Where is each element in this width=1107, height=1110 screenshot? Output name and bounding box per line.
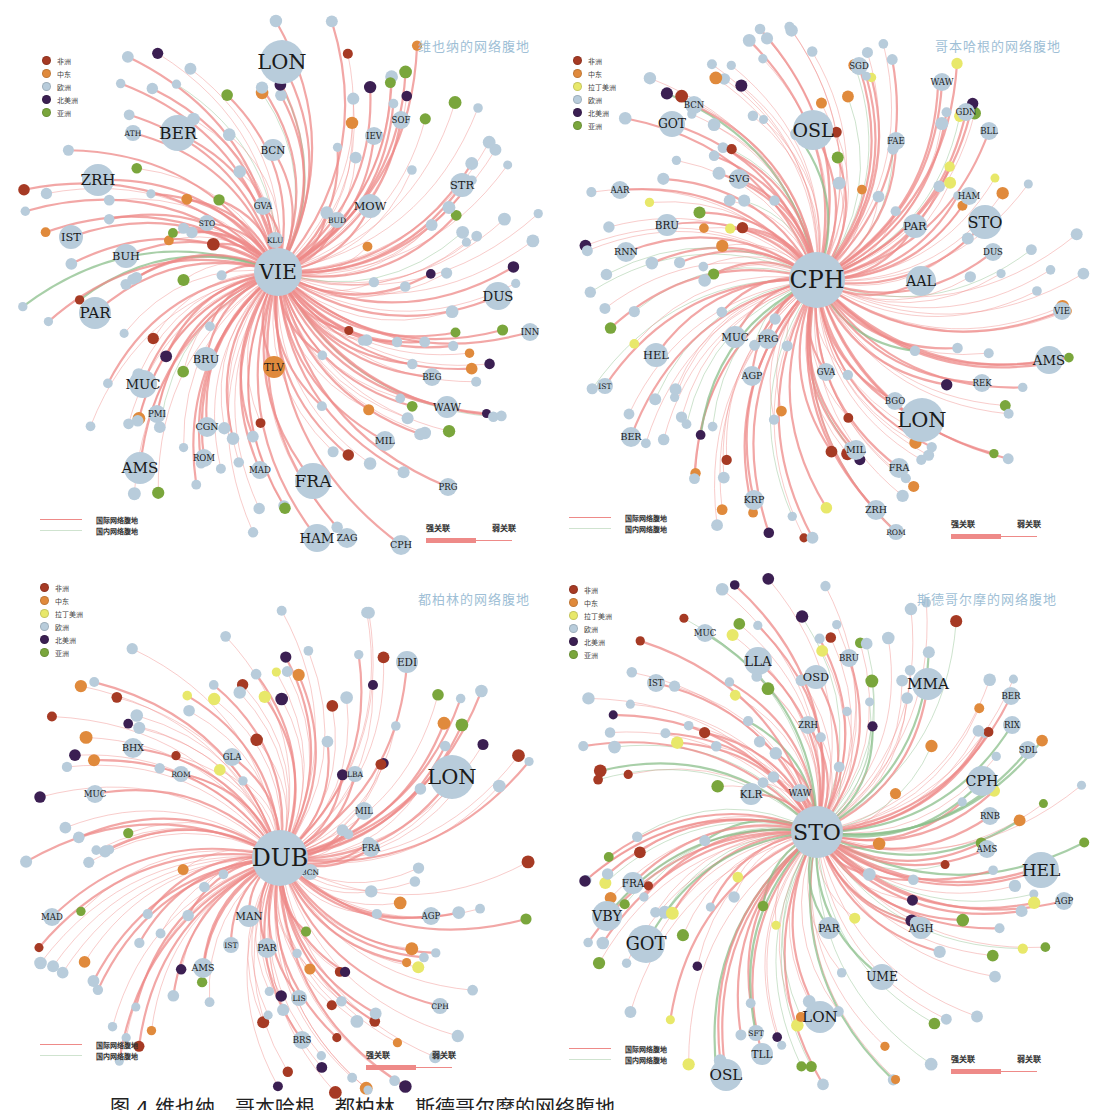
city-node xyxy=(832,152,844,164)
city-node xyxy=(605,322,617,334)
city-node xyxy=(636,636,645,645)
city-node xyxy=(214,764,226,776)
city-node xyxy=(996,187,1008,199)
panel-dublin: LONEDIBHXMANPARAMSFRAAGPMILGLAMUCMADBRSL… xyxy=(0,553,553,1098)
legend-item-middle-east: 中东 xyxy=(40,594,83,607)
weak-link-label: 弱关联 xyxy=(1017,1053,1041,1064)
city-node xyxy=(622,958,631,967)
legend-item-middle-east: 中东 xyxy=(573,67,616,80)
city-node xyxy=(361,607,372,618)
strength-legend: 强关联弱关联 xyxy=(426,522,516,543)
city-node xyxy=(608,741,621,754)
city-node: ZRH xyxy=(80,164,115,196)
city-node xyxy=(522,855,535,868)
city-node xyxy=(727,629,739,641)
city-node xyxy=(147,1026,156,1035)
svg-text:RIX: RIX xyxy=(1004,720,1021,730)
city-node xyxy=(133,722,145,734)
city-node: LLA xyxy=(744,647,772,675)
svg-text:BGO: BGO xyxy=(885,396,905,406)
city-node xyxy=(364,81,376,93)
city-node: IST xyxy=(597,378,613,394)
legend-label: 欧洲 xyxy=(55,622,69,632)
city-node xyxy=(471,377,481,387)
legend-item-north-america: 北美洲 xyxy=(569,635,612,648)
city-node xyxy=(378,651,390,663)
city-node xyxy=(725,677,734,686)
city-node xyxy=(807,532,819,544)
legend-item-asia: 亚洲 xyxy=(573,119,616,132)
city-node xyxy=(880,1042,889,1051)
city-node xyxy=(431,948,440,957)
legend-item-latin-america: 拉丁美洲 xyxy=(40,607,83,620)
city-node xyxy=(716,240,728,252)
city-node xyxy=(735,1029,746,1040)
city-node xyxy=(511,279,520,288)
svg-text:FRA: FRA xyxy=(889,462,910,473)
city-node xyxy=(599,303,610,314)
city-node: BUH xyxy=(112,244,140,268)
city-node: HEL xyxy=(1022,852,1061,888)
city-node xyxy=(343,49,353,59)
svg-text:AGP: AGP xyxy=(741,370,763,381)
city-node xyxy=(275,990,286,1001)
weak-link-label: 弱关联 xyxy=(1017,518,1041,529)
svg-text:BER: BER xyxy=(620,431,642,442)
city-node xyxy=(716,307,727,318)
legend-label: 拉丁美洲 xyxy=(584,611,612,621)
legend-label: 北美洲 xyxy=(57,95,78,105)
svg-text:EDI: EDI xyxy=(397,656,417,668)
svg-text:PAR: PAR xyxy=(818,922,841,934)
city-node: MIL xyxy=(375,431,396,451)
weak-link-label: 弱关联 xyxy=(492,522,516,533)
svg-text:BER: BER xyxy=(159,123,198,143)
city-node: RNB xyxy=(980,807,1000,825)
city-node xyxy=(1018,943,1028,953)
city-node xyxy=(769,415,779,425)
city-node xyxy=(304,646,314,656)
city-node xyxy=(116,79,125,88)
city-node xyxy=(217,270,227,280)
city-node xyxy=(318,351,328,361)
city-node xyxy=(340,691,353,704)
svg-text:LON: LON xyxy=(427,765,476,789)
svg-text:LON: LON xyxy=(897,408,946,432)
region-legend: 非洲中东拉丁美洲欧洲北美洲亚洲 xyxy=(573,54,616,132)
legend-label: 欧洲 xyxy=(584,624,598,634)
city-node xyxy=(826,632,837,643)
city-node xyxy=(401,91,412,102)
svg-text:WAW: WAW xyxy=(789,788,812,798)
city-node xyxy=(171,751,180,760)
city-node xyxy=(277,1004,289,1016)
city-node xyxy=(414,428,426,440)
city-node: AAR xyxy=(610,181,630,199)
city-node xyxy=(130,709,143,722)
svg-text:AAL: AAL xyxy=(905,273,937,289)
city-node xyxy=(1032,286,1042,296)
city-node xyxy=(452,906,465,919)
city-node xyxy=(1016,905,1028,917)
city-node: BER xyxy=(1002,687,1022,705)
city-node xyxy=(669,681,680,692)
city-node xyxy=(122,51,134,63)
city-node: OSL xyxy=(710,1059,743,1091)
city-node xyxy=(256,418,266,428)
legend-label: 拉丁美洲 xyxy=(55,609,83,619)
city-node xyxy=(672,156,681,165)
city-node xyxy=(391,721,401,731)
city-node: MAN xyxy=(235,905,262,927)
svg-text:REK: REK xyxy=(972,378,992,388)
svg-text:DUS: DUS xyxy=(483,289,514,304)
city-node xyxy=(806,1061,817,1072)
city-node: PMI xyxy=(148,405,166,423)
city-node xyxy=(1078,268,1090,280)
city-node xyxy=(493,780,506,793)
city-node xyxy=(327,1000,337,1010)
city-node xyxy=(629,306,640,317)
city-node xyxy=(394,897,407,910)
legend-item-europe: 欧洲 xyxy=(569,622,612,635)
city-node: PRG xyxy=(438,478,457,496)
svg-text:VIE: VIE xyxy=(258,260,297,284)
legend-item-latin-america: 拉丁美洲 xyxy=(569,609,612,622)
city-node xyxy=(441,267,452,278)
